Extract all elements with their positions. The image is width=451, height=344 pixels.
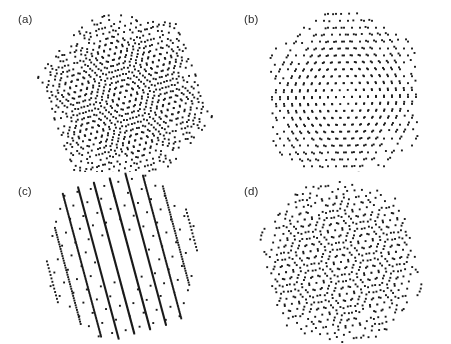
panel-c: (c) [0,172,226,344]
panel-c-label: (c) [18,186,32,198]
panel-b-point-plot [226,0,451,172]
panel-a: (a) [0,0,226,172]
panel-a-point-plot [0,0,226,172]
panel-d-label: (d) [244,186,258,198]
panel-d-point-plot [226,172,451,344]
panel-d: (d) [226,172,451,344]
figure-canvas: (a) (b) (c) (d) [0,0,451,344]
panel-b: (b) [226,0,451,172]
panel-b-label: (b) [244,14,258,26]
panel-c-point-plot [0,172,226,344]
panel-a-label: (a) [18,14,32,26]
